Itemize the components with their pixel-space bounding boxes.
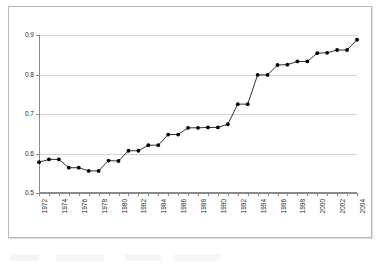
- x-tick-mark: [317, 193, 318, 196]
- x-tick-label: 1986: [181, 199, 188, 213]
- data-point-marker: [87, 169, 91, 173]
- x-tick-mark: [218, 193, 219, 196]
- data-point-marker: [37, 160, 41, 164]
- x-tick-mark: [109, 193, 110, 196]
- caption-fragment: [10, 254, 220, 261]
- x-tick-mark: [69, 193, 70, 196]
- data-point-marker: [345, 48, 349, 52]
- data-point-marker: [266, 73, 270, 77]
- x-tick-label: 1972: [42, 199, 49, 213]
- data-point-marker: [176, 133, 180, 137]
- x-tick-label: 1988: [201, 199, 208, 213]
- data-point-marker: [246, 102, 250, 106]
- x-tick-label: 1994: [261, 199, 268, 213]
- x-tick-label: 1982: [141, 199, 148, 213]
- data-point-marker: [196, 126, 200, 130]
- x-tick-label: 1976: [82, 199, 89, 213]
- x-tick-mark: [228, 193, 229, 196]
- x-tick-label: 2004: [360, 199, 367, 213]
- data-point-marker: [166, 133, 170, 137]
- data-point-marker: [186, 126, 190, 130]
- data-point-marker: [355, 38, 359, 42]
- x-tick-mark: [148, 193, 149, 196]
- data-point-marker: [47, 158, 51, 162]
- data-point-marker: [295, 60, 299, 64]
- x-tick-label: 2002: [340, 199, 347, 213]
- x-tick-label: 1974: [62, 199, 69, 213]
- x-tick-mark: [59, 193, 60, 196]
- x-tick-label: 1984: [161, 199, 168, 213]
- x-tick-mark: [297, 193, 298, 196]
- x-tick-label: 1998: [300, 199, 307, 213]
- data-series-line: [39, 35, 357, 193]
- x-tick-mark: [337, 193, 338, 196]
- x-tick-label: 1980: [122, 199, 129, 213]
- x-tick-mark: [347, 193, 348, 196]
- data-point-marker: [107, 159, 111, 163]
- x-tick-mark: [89, 193, 90, 196]
- x-tick-label: 1996: [281, 199, 288, 213]
- data-point-marker: [57, 158, 61, 162]
- x-tick-mark: [198, 193, 199, 196]
- x-tick-mark: [258, 193, 259, 196]
- y-tick-label: 0.5: [25, 190, 34, 197]
- x-tick-mark: [39, 193, 40, 196]
- figure-frame: 0.50.60.70.80.9 197219741976197819801982…: [8, 6, 372, 238]
- x-tick-mark: [178, 193, 179, 196]
- x-tick-mark: [278, 193, 279, 196]
- x-tick-mark: [49, 193, 50, 196]
- x-tick-mark: [138, 193, 139, 196]
- x-tick-mark: [168, 193, 169, 196]
- data-point-marker: [216, 126, 220, 130]
- data-point-marker: [206, 126, 210, 130]
- data-point-marker: [117, 159, 121, 163]
- x-tick-mark: [327, 193, 328, 196]
- series-polyline: [39, 40, 357, 171]
- data-point-marker: [136, 149, 140, 153]
- x-tick-label: 1992: [241, 199, 248, 213]
- data-point-marker: [325, 51, 329, 55]
- data-point-marker: [127, 149, 131, 153]
- data-point-marker: [256, 73, 260, 77]
- x-tick-mark: [79, 193, 80, 196]
- data-point-marker: [315, 51, 319, 55]
- data-point-marker: [226, 122, 230, 126]
- x-tick-mark: [238, 193, 239, 196]
- data-point-marker: [97, 169, 101, 173]
- data-point-marker: [236, 102, 240, 106]
- x-tick-label: 2000: [320, 199, 327, 213]
- x-tick-mark: [119, 193, 120, 196]
- data-point-marker: [276, 63, 280, 67]
- x-tick-mark: [287, 193, 288, 196]
- y-tick-label: 0.7: [25, 111, 34, 118]
- x-tick-mark: [99, 193, 100, 196]
- x-tick-mark: [188, 193, 189, 196]
- y-tick-label: 0.8: [25, 71, 34, 78]
- x-tick-label: 1978: [102, 199, 109, 213]
- x-tick-mark: [268, 193, 269, 196]
- x-tick-mark: [357, 193, 358, 196]
- y-tick-label: 0.6: [25, 150, 34, 157]
- data-point-marker: [286, 63, 290, 67]
- x-tick-mark: [208, 193, 209, 196]
- data-point-marker: [156, 143, 160, 147]
- x-tick-mark: [248, 193, 249, 196]
- x-tick-mark: [158, 193, 159, 196]
- data-point-marker: [305, 60, 309, 64]
- data-point-marker: [67, 166, 71, 170]
- x-tick-mark: [307, 193, 308, 196]
- x-tick-mark: [128, 193, 129, 196]
- plot-area: 0.50.60.70.80.9 197219741976197819801982…: [39, 35, 357, 193]
- data-point-marker: [77, 166, 81, 170]
- y-tick-label: 0.9: [25, 32, 34, 39]
- data-point-marker: [146, 143, 150, 147]
- data-point-marker: [335, 48, 339, 52]
- x-tick-label: 1990: [221, 199, 228, 213]
